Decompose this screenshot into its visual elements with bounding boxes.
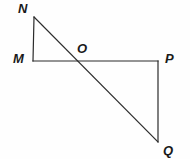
vertex-label-m: M [13, 52, 24, 65]
vertex-label-n: N [18, 2, 27, 15]
geometry-canvas [0, 0, 190, 159]
segment-NQ [34, 17, 158, 142]
geometry-figure: N M O P Q [0, 0, 190, 159]
vertex-label-q: Q [163, 144, 173, 157]
vertex-label-o: O [77, 42, 87, 55]
segment-NM [33, 17, 34, 61]
vertex-label-p: P [165, 52, 174, 65]
